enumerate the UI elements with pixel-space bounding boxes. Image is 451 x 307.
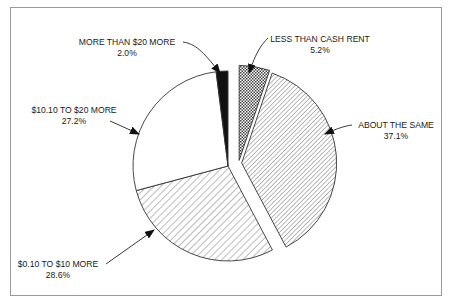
label-less-than-cash-rent: LESS THAN CASH RENT — [270, 34, 370, 44]
arrow-010-to-10-more — [106, 230, 154, 264]
value-more-than-20-more: 2.0% — [117, 48, 137, 58]
label-010-to-10-more: $0.10 TO $10 MORE — [18, 259, 99, 269]
label-more-than-20-more: MORE THAN $20 MORE — [79, 37, 176, 47]
label-1010-to-20-more: $10.10 TO $20 MORE — [31, 105, 116, 115]
label-about-the-same: ABOUT THE SAME — [358, 120, 434, 130]
value-less-than-cash-rent: 5.2% — [310, 45, 330, 55]
value-about-the-same: 37.1% — [384, 131, 409, 141]
value-1010-to-20-more: 27.2% — [62, 116, 87, 126]
arrow-1010-to-20-more — [110, 121, 139, 134]
arrow-more-than-20-more — [183, 42, 220, 73]
pie-chart: LESS THAN CASH RENT 5.2% ABOUT THE SAME … — [0, 0, 451, 307]
value-010-to-10-more: 28.6% — [46, 270, 71, 280]
